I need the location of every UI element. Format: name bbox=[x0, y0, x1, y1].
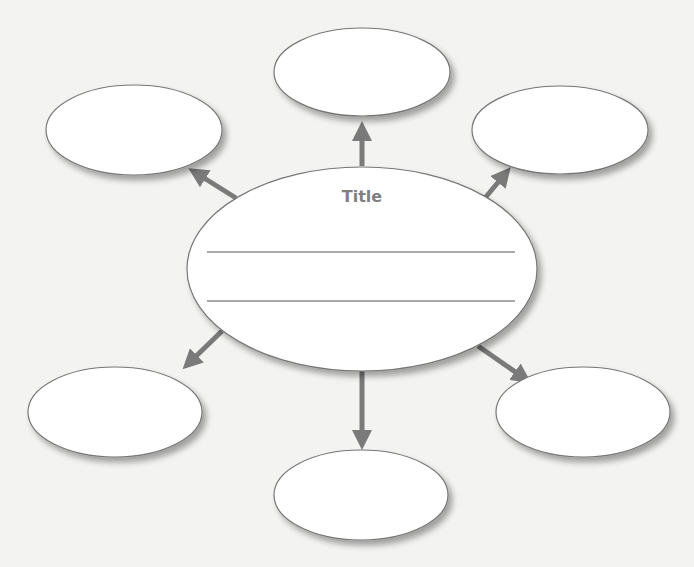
oval-top-left[interactable] bbox=[46, 85, 222, 175]
center-title: Title bbox=[342, 187, 383, 206]
oval-top[interactable] bbox=[274, 28, 450, 116]
arrow-to-bottom-left bbox=[189, 331, 222, 363]
oval-bottom-right[interactable] bbox=[496, 367, 670, 457]
arrow-to-top-left bbox=[196, 173, 236, 198]
center-oval: Title bbox=[187, 167, 537, 371]
arrow-to-bottom-right bbox=[478, 346, 524, 378]
oval-bottom-left[interactable] bbox=[28, 367, 202, 457]
idea-web-diagram: Title bbox=[0, 0, 694, 567]
arrow-to-top-right bbox=[485, 174, 505, 198]
oval-top-right[interactable] bbox=[472, 86, 648, 174]
oval-bottom[interactable] bbox=[274, 450, 448, 540]
diagram-canvas: Title bbox=[0, 0, 694, 567]
